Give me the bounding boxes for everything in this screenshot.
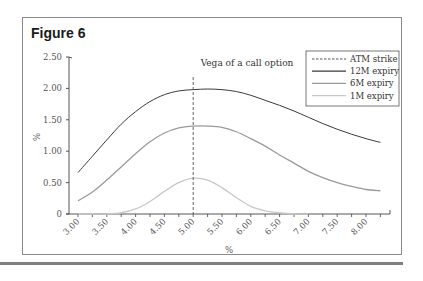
legend-item-label: 12M expiry [350,66,399,76]
y-tick-label: 1.00 [43,146,62,156]
x-tick-label: 6.00 [234,216,254,236]
line-chart: 00.501.001.502.002.503.003.504.004.505.0… [0,0,423,281]
x-tick-label: 5.50 [205,216,225,236]
series-line-6m-expiry [78,126,380,201]
x-tick-label: 8.00 [349,216,369,236]
x-tick-label: 5.00 [176,216,196,236]
x-tick-label: 4.50 [147,216,167,236]
legend-item-label: 6M expiry [350,78,394,88]
x-tick-label: 4.00 [119,216,139,236]
y-axis-label: % [32,133,42,141]
legend: ATM strike12M expiry6M expiry1M expiry [306,51,399,106]
x-tick-label: 6.50 [263,216,283,236]
x-tick-label: 3.00 [61,216,81,236]
legend-item-label: 1M expiry [350,91,394,101]
y-tick-label: 1.50 [43,115,62,125]
legend-item-label: ATM strike [349,54,398,64]
y-tick-label: 2.50 [43,52,62,62]
x-tick-label: 3.50 [90,216,110,236]
x-tick-label: 7.50 [320,216,340,236]
x-tick-label: 7.00 [291,216,311,236]
y-tick-label: 0 [57,209,62,219]
x-axis-label: % [225,245,233,255]
chart-title: Vega of a call option [200,58,294,68]
y-tick-label: 2.00 [43,83,62,93]
y-tick-label: 0.50 [43,178,62,188]
